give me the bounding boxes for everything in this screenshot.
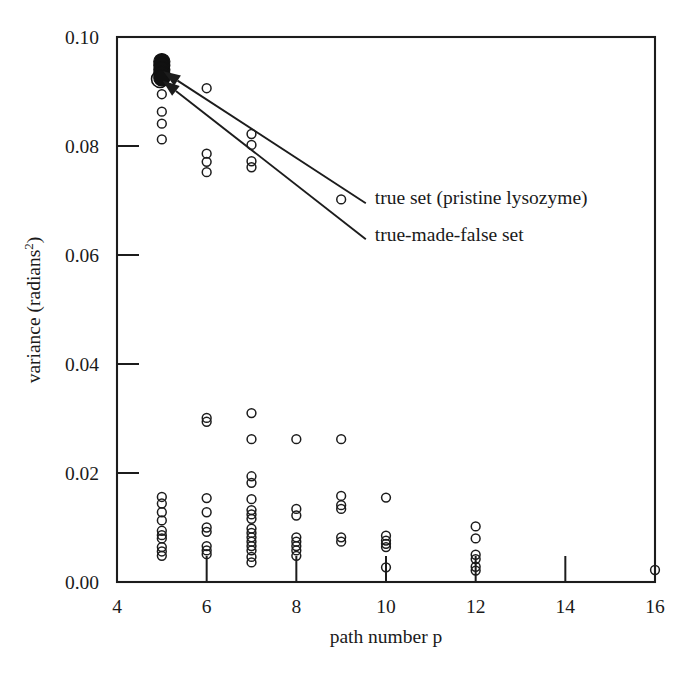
x-tick-label: 16	[645, 596, 665, 617]
data-point-open	[337, 491, 346, 500]
data-point-open	[247, 409, 256, 418]
y-axis-title-main: variance (radians	[23, 250, 45, 384]
data-markers-true-set	[154, 54, 170, 86]
data-point-open	[382, 493, 391, 502]
y-tick-label: 0.04	[65, 354, 99, 375]
data-point-open	[247, 163, 256, 172]
data-point-open	[157, 90, 166, 99]
data-point-open	[247, 478, 256, 487]
y-tick-label: 0.02	[65, 463, 99, 484]
y-tick-label: 0.00	[65, 572, 99, 593]
x-axis-title: path number p	[330, 626, 443, 647]
leader-line	[178, 81, 366, 204]
data-point-open	[337, 435, 346, 444]
data-point-open	[157, 119, 166, 128]
data-point-open	[247, 495, 256, 504]
data-point-open	[471, 534, 480, 543]
data-point-open	[292, 511, 301, 520]
data-point-open	[202, 508, 211, 517]
y-axis-title: variance (radians2)	[21, 237, 45, 384]
data-point-open	[471, 522, 480, 531]
y-tick-label: 0.06	[65, 245, 99, 266]
y-tick-label: 0.10	[65, 27, 99, 48]
arrowhead-icon	[162, 80, 179, 95]
annotation-true-made-false-set: true-made-false set	[375, 224, 524, 245]
data-point-open	[202, 84, 211, 93]
y-axis-ticks: 0.000.020.040.060.080.10	[65, 27, 139, 593]
annotation-leader-lines	[162, 71, 365, 239]
data-markers-false-sets	[157, 84, 659, 575]
data-point-open	[247, 435, 256, 444]
data-point-open	[157, 499, 166, 508]
y-axis-title-tail: )	[23, 237, 45, 244]
scatter-plot-figure: 0.000.020.040.060.080.10 46810121416 tru…	[0, 0, 687, 673]
x-tick-label: 14	[556, 596, 576, 617]
data-point-open	[157, 135, 166, 144]
plot-canvas: 0.000.020.040.060.080.10 46810121416 tru…	[0, 0, 687, 673]
data-point-open	[202, 168, 211, 177]
plot-frame	[117, 37, 655, 582]
data-point-open	[337, 195, 346, 204]
data-point-open	[157, 107, 166, 116]
data-point-open	[202, 494, 211, 503]
x-axis-ticks: 46810121416	[112, 556, 665, 617]
data-point-open	[247, 558, 256, 567]
x-tick-label: 12	[466, 596, 486, 617]
annotation-true-set: true set (pristine lysozyme)	[375, 187, 588, 209]
x-tick-label: 4	[112, 596, 122, 617]
x-tick-label: 10	[376, 596, 396, 617]
data-point-open	[292, 435, 301, 444]
x-tick-label: 6	[202, 596, 212, 617]
x-tick-label: 8	[291, 596, 301, 617]
y-tick-label: 0.08	[65, 136, 99, 157]
y-axis-title-group: variance (radians2)	[21, 237, 45, 384]
